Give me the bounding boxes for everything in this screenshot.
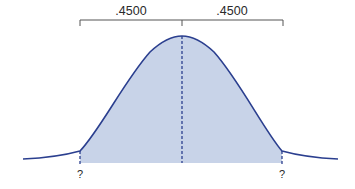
- normal-curve-diagram: .4500 .4500 ? ?: [0, 0, 355, 189]
- left-unknown-marker: ?: [77, 168, 83, 180]
- left-area-label: .4500: [115, 4, 146, 18]
- shaded-area: [80, 36, 282, 163]
- right-area-label: .4500: [216, 4, 247, 18]
- top-bracket: [80, 20, 283, 26]
- right-unknown-marker: ?: [279, 168, 285, 180]
